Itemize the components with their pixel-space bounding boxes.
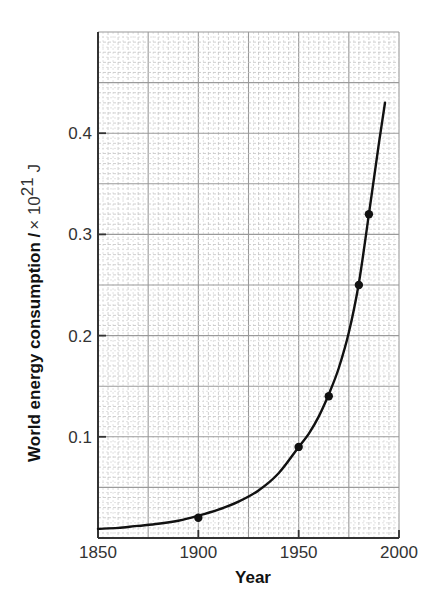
x-tick-label: 1950	[280, 543, 318, 562]
fitted-curve	[98, 103, 385, 529]
data-point	[194, 514, 202, 522]
x-tick-label: 1900	[179, 543, 217, 562]
data-point	[294, 443, 302, 451]
energy-consumption-chart: 1850190019502000 0.10.20.30.4 Year World…	[0, 0, 434, 605]
y-tick-label: 0.3	[68, 225, 92, 244]
graph-paper-grid	[98, 32, 399, 538]
y-axis-title-joule: J	[25, 164, 44, 177]
data-point	[365, 210, 373, 218]
y-axis-title-exponent: 21	[18, 177, 37, 196]
y-tick-label: 0.2	[68, 327, 92, 346]
x-tick-label: 2000	[380, 543, 418, 562]
y-axis-title-main: World energy consumption /	[25, 232, 44, 461]
y-axis-title: World energy consumption /× 1021 J	[18, 164, 44, 462]
x-tick-label: 1850	[79, 543, 117, 562]
y-tick-label: 0.4	[68, 124, 92, 143]
x-axis-tick-labels: 1850190019502000	[79, 543, 418, 562]
x-axis-title: Year	[235, 568, 271, 587]
data-point	[325, 392, 333, 400]
y-axis-tick-labels: 0.10.20.30.4	[68, 124, 92, 447]
svg-text:World energy consumption /× 10: World energy consumption /× 1021 J	[18, 164, 44, 462]
data-point	[355, 281, 363, 289]
y-tick-label: 0.1	[68, 428, 92, 447]
y-axis-title-unit: × 10	[25, 196, 44, 230]
